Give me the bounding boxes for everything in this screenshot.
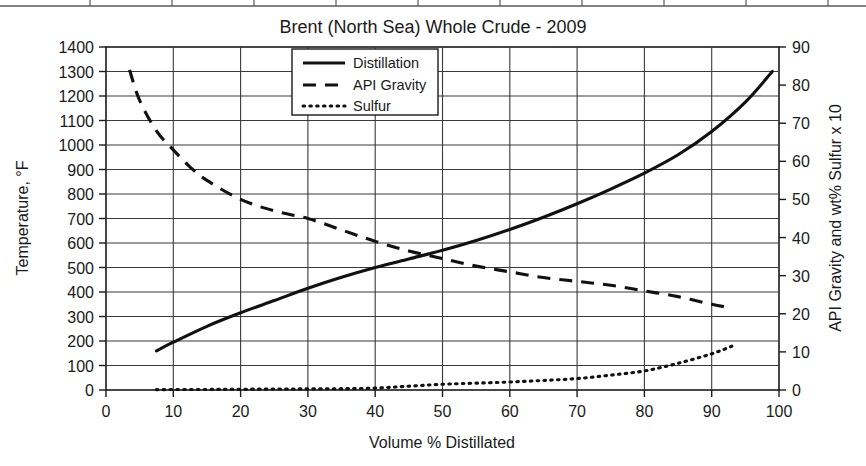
legend-label-distillation: Distillation bbox=[353, 55, 419, 71]
x-axis-tick-label: 60 bbox=[501, 403, 519, 420]
y-axis-left-tick-label: 300 bbox=[67, 309, 94, 326]
y-axis-left-label: Temperature, °F bbox=[14, 160, 31, 275]
y-axis-left-tick-label: 1100 bbox=[60, 113, 95, 130]
y-axis-left-tick-label: 1300 bbox=[58, 64, 94, 81]
y-axis-right-tick-label: 70 bbox=[792, 115, 810, 132]
y-axis-right: 0102030405060708090 bbox=[779, 39, 810, 399]
y-axis-right-tick-label: 50 bbox=[792, 191, 810, 208]
y-axis-left-tick-label: 800 bbox=[67, 186, 94, 203]
x-axis-tick-label: 0 bbox=[102, 403, 111, 420]
series-line-distillation bbox=[156, 72, 772, 351]
x-axis-tick-label: 40 bbox=[366, 403, 384, 420]
chart-title: Brent (North Sea) Whole Crude - 2009 bbox=[279, 17, 586, 37]
x-axis-tick-label: 70 bbox=[568, 403, 586, 420]
line-chart: Brent (North Sea) Whole Crude - 2009 010… bbox=[0, 0, 866, 466]
y-axis-left-tick-label: 200 bbox=[67, 333, 94, 350]
y-axis-left-tick-label: 0 bbox=[85, 382, 94, 399]
y-axis-right-tick-label: 0 bbox=[792, 382, 801, 399]
y-axis-left-tick-label: 100 bbox=[67, 358, 94, 375]
x-axis-tick-label: 30 bbox=[299, 403, 317, 420]
y-axis-left-tick-label: 500 bbox=[67, 260, 94, 277]
y-axis-right-tick-label: 80 bbox=[792, 77, 810, 94]
y-axis-left-tick-label: 900 bbox=[67, 162, 94, 179]
y-axis-right-label: API Gravity and wt% Sulfur x 10 bbox=[827, 104, 844, 332]
y-axis-right-tick-label: 30 bbox=[792, 268, 810, 285]
legend-label-sulfur: Sulfur bbox=[353, 98, 391, 114]
x-axis-label: Volume % Distillated bbox=[369, 434, 515, 451]
y-axis-right-tick-label: 60 bbox=[792, 153, 810, 170]
x-axis-tick-label: 20 bbox=[232, 403, 250, 420]
y-axis-right-tick-label: 20 bbox=[792, 306, 810, 323]
y-axis-right-tick-label: 90 bbox=[792, 39, 810, 56]
y-axis-left-tick-label: 700 bbox=[67, 211, 94, 228]
y-axis-left-tick-label: 400 bbox=[67, 284, 94, 301]
y-axis-left: 0100200300400500600700800900100011001200… bbox=[58, 39, 106, 399]
x-axis-tick-label: 50 bbox=[434, 403, 452, 420]
x-axis-tick-label: 90 bbox=[703, 403, 721, 420]
x-axis-tick-label: 100 bbox=[766, 403, 793, 420]
legend-label-api-gravity: API Gravity bbox=[353, 77, 427, 93]
x-axis-tick-label: 80 bbox=[636, 403, 654, 420]
y-axis-right-tick-label: 10 bbox=[792, 344, 810, 361]
y-axis-left-tick-label: 1000 bbox=[58, 137, 94, 154]
scan-artifact-axis bbox=[0, 0, 866, 6]
y-axis-left-tick-label: 1200 bbox=[58, 88, 94, 105]
y-axis-left-tick-label: 1400 bbox=[58, 39, 94, 56]
series-line-sulfur bbox=[156, 346, 731, 389]
x-axis: 0102030405060708090100 bbox=[102, 390, 793, 420]
y-axis-left-tick-label: 600 bbox=[67, 235, 94, 252]
x-axis-tick-label: 10 bbox=[164, 403, 182, 420]
chart-figure: Brent (North Sea) Whole Crude - 2009 010… bbox=[0, 0, 866, 466]
chart-legend: Distillation API Gravity Sulfur bbox=[292, 49, 438, 115]
y-axis-right-tick-label: 40 bbox=[792, 230, 810, 247]
